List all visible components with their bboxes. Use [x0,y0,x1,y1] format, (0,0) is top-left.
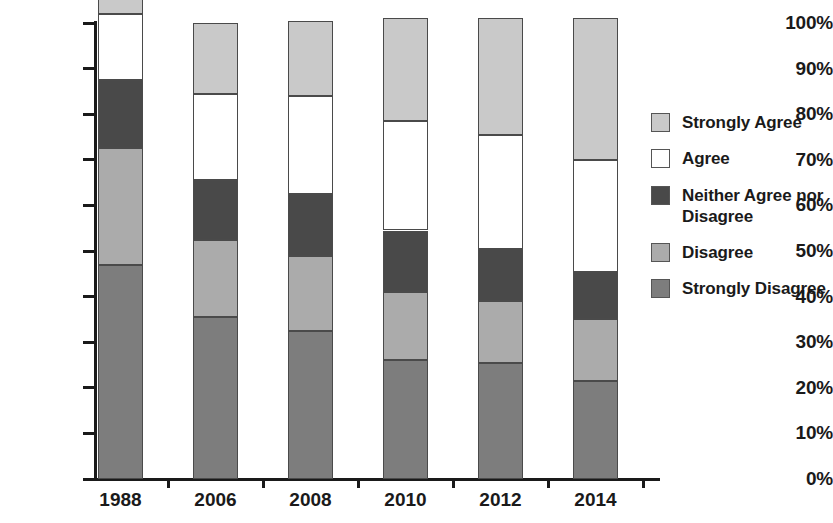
bar-segment-agree [573,160,618,272]
x-axis-tick [547,478,550,488]
bar-1988 [98,23,143,479]
y-axis-tick [83,204,95,207]
bar-segment-strongly-disagree [383,360,428,479]
y-axis-tick [83,295,95,298]
legend-item-label: Strongly Disagree [682,278,826,299]
bar-segment-agree [478,135,523,249]
legend-item[interactable]: Strongly Disagree [651,278,833,299]
plot-area [98,23,658,479]
legend-item-label: Disagree [682,242,753,263]
legend-swatch-icon [651,186,670,205]
x-axis-tick-label: 1988 [81,489,161,511]
bar-segment-neither-agree-nor-disagree [98,80,143,148]
y-axis-tick [83,478,95,481]
bar-2014 [573,23,618,479]
bar-segment-neither-agree-nor-disagree [573,272,618,320]
y-axis-tick-label: 90% [759,59,833,78]
x-axis-tick-label: 2008 [271,489,351,511]
bar-segment-neither-agree-nor-disagree [288,194,333,256]
bar-segment-strongly-agree [383,18,428,121]
bar-segment-strongly-agree [193,23,238,94]
y-axis-tick [83,113,95,116]
bar-segment-neither-agree-nor-disagree [478,249,523,301]
bar-segment-disagree [383,292,428,360]
bar-segment-agree [288,96,333,194]
x-axis-tick [357,478,360,488]
legend-item[interactable]: Disagree [651,242,833,263]
bar-segment-disagree [573,319,618,381]
bar-segment-agree [383,121,428,230]
bar-segment-strongly-disagree [98,265,143,479]
y-axis-tick [83,432,95,435]
y-axis-tick [83,250,95,253]
bar-2008 [288,23,333,479]
bar-segment-disagree [98,148,143,264]
x-axis-tick-label: 2014 [556,489,636,511]
bar-segment-neither-agree-nor-disagree [193,180,238,239]
legend-swatch-icon [651,279,670,298]
x-axis-tick [262,478,265,488]
legend-swatch-icon [651,149,670,168]
legend-item-label: Strongly Agree [682,112,802,133]
legend-item-label: Neither Agree nor Disagree [682,185,833,228]
bar-segment-agree [98,14,143,80]
bar-segment-strongly-agree [288,21,333,96]
bar-segment-strongly-agree [478,18,523,134]
bar-segment-disagree [288,256,333,331]
legend-item[interactable]: Neither Agree nor Disagree [651,185,833,228]
y-axis-tick-label: 30% [759,332,833,351]
legend-item[interactable]: Agree [651,148,833,169]
bar-segment-strongly-agree [573,18,618,159]
x-axis-tick [642,478,645,488]
legend-item[interactable]: Strongly Agree [651,112,833,133]
y-axis-tick [83,22,95,25]
y-axis-tick-label: 0% [759,469,833,488]
bar-segment-strongly-agree [98,0,143,14]
bar-segment-strongly-disagree [478,363,523,479]
y-axis-tick [83,341,95,344]
y-axis-tick [83,386,95,389]
y-axis-tick [83,67,95,70]
x-axis-tick-label: 2006 [176,489,256,511]
x-axis-tick-label: 2010 [366,489,446,511]
x-axis-tick [167,478,170,488]
y-axis-tick-label: 20% [759,378,833,397]
bar-2010 [383,23,428,479]
bar-segment-neither-agree-nor-disagree [383,231,428,293]
bar-2012 [478,23,523,479]
chart-legend: Strongly AgreeAgreeNeither Agree nor Dis… [651,112,833,315]
bar-segment-disagree [193,240,238,318]
y-axis-tick-label: 10% [759,423,833,442]
bar-segment-strongly-disagree [193,317,238,479]
x-axis-tick-label: 2012 [461,489,541,511]
y-axis-tick-label: 100% [759,13,833,32]
bar-segment-disagree [478,301,523,363]
legend-swatch-icon [651,113,670,132]
stacked-bar-chart: 100%90%80%70%60%50%40%30%20%10%0% 198820… [0,0,833,523]
legend-swatch-icon [651,243,670,262]
bar-segment-strongly-disagree [288,331,333,479]
bar-2006 [193,23,238,479]
legend-item-label: Agree [682,148,730,169]
bar-segment-agree [193,94,238,181]
bar-segment-strongly-disagree [573,381,618,479]
x-axis-tick [452,478,455,488]
y-axis-tick [83,158,95,161]
